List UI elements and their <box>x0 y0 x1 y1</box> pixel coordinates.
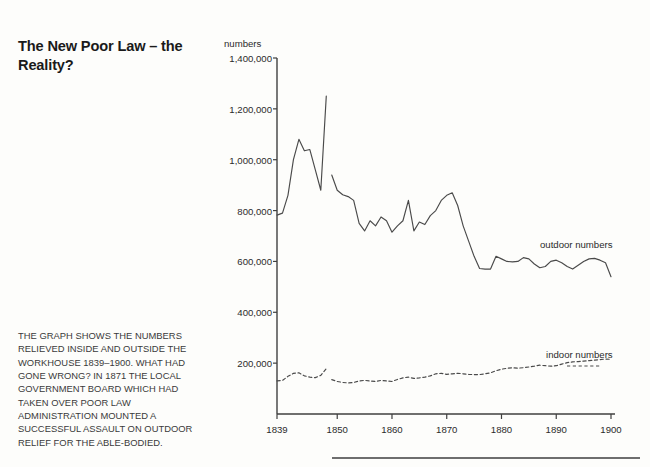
y-tick-label: 1,000,000 <box>212 154 272 165</box>
y-tick-label: 1,200,000 <box>212 103 272 114</box>
series-line-outdoor <box>332 175 611 277</box>
x-tick-label: 1890 <box>546 424 567 435</box>
y-tick-label: 600,000 <box>212 256 272 267</box>
x-tick-label: 1880 <box>491 424 512 435</box>
x-tick-label: 1870 <box>436 424 457 435</box>
x-tick-label: 1839 <box>266 424 287 435</box>
y-axis-tick-labels: 1,400,0001,200,0001,000,000800,000600,00… <box>212 0 272 467</box>
x-tick-label: 1850 <box>327 424 348 435</box>
y-tick-label: 400,000 <box>212 307 272 318</box>
poster-page: The New Poor Law – the Reality? THE GRAP… <box>0 0 650 467</box>
series-line-indoor <box>332 359 611 383</box>
series-line-indoor <box>277 369 326 381</box>
x-tick-label: 1860 <box>381 424 402 435</box>
x-tick-label: 1900 <box>600 424 621 435</box>
chart-figure: numbers 1,400,0001,200,0001,000,000800,0… <box>0 0 650 467</box>
footer-divider <box>332 457 640 459</box>
y-tick-label: 1,400,000 <box>212 53 272 64</box>
series-label-outdoor: outdoor numbers <box>540 239 613 250</box>
chart-plot-area <box>0 0 650 467</box>
y-tick-label: 800,000 <box>212 205 272 216</box>
y-tick-label: 200,000 <box>212 358 272 369</box>
series-label-indoor: indoor numbers <box>546 349 613 360</box>
series-line-outdoor <box>277 96 326 215</box>
